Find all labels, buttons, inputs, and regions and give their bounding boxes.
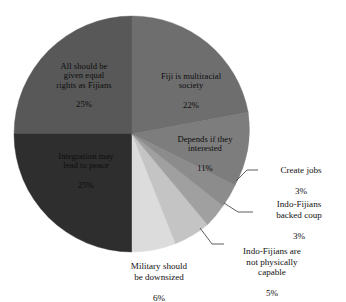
slice-label-depends-text: Depends if they interested — [158, 135, 252, 154]
slice-label-integration-text: Integration may lead to peace — [36, 152, 136, 171]
slice-label-military-value: 6% — [107, 293, 211, 302]
slice-label-create-jobs-text: Create jobs — [261, 165, 341, 175]
slice-label-equal-rights: All should be given equal rights as Fiji… — [32, 52, 136, 119]
slice-label-equal-rights-text: All should be given equal rights as Fiji… — [32, 62, 136, 91]
leader-line-backed-coup — [224, 203, 253, 212]
slice-label-multiracial-value: 22% — [142, 101, 240, 111]
slice-label-military: Military should be downsized 6% — [107, 251, 211, 302]
slice-label-integration-value: 25% — [36, 181, 136, 191]
slice-label-depends-value: 11% — [158, 164, 252, 174]
slice-label-integration: Integration may lead to peace 25% — [36, 142, 136, 200]
slice-label-depends: Depends if they interested 11% — [158, 125, 252, 183]
pie-chart: All should be given equal rights as Fiji… — [0, 0, 346, 302]
slice-label-not-capable-value: 5% — [226, 288, 318, 298]
slice-label-multiracial: Fiji is multiracial society 22% — [142, 62, 240, 120]
slice-label-military-text: Military should be downsized — [107, 261, 211, 282]
slice-label-multiracial-text: Fiji is multiracial society — [142, 72, 240, 91]
slice-label-not-capable-text: Indo-Fijians are not physically capable — [226, 246, 318, 277]
leader-line-not-capable — [200, 228, 224, 244]
slice-label-not-capable: Indo-Fijians are not physically capable … — [226, 236, 318, 302]
slice-label-backed-coup-text: Indo-Fijians backed coup — [256, 199, 342, 220]
slice-label-equal-rights-value: 25% — [32, 100, 136, 110]
